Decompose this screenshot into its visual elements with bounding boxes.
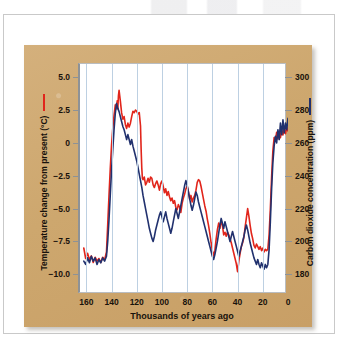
x-axis-tick-label: 0 xyxy=(286,297,291,307)
left-axis-tick-label: −2.5 xyxy=(53,171,70,181)
left-axis-title: Temperature change from present (°C) xyxy=(39,92,49,272)
left-axis-tick-label: 2.5 xyxy=(58,105,70,115)
x-axis-tick-label: 100 xyxy=(155,297,169,307)
x-axis-tick-label: 60 xyxy=(208,297,217,307)
x-axis-tick-label: 140 xyxy=(104,297,118,307)
x-axis-tick-label: 80 xyxy=(182,297,191,307)
left-axis-tick-label: −7.5 xyxy=(53,236,70,246)
right-axis-tick xyxy=(285,176,292,177)
x-axis-title: Thousands of years ago xyxy=(78,311,286,321)
right-axis-tick xyxy=(285,110,292,111)
x-axis-tick-label: 120 xyxy=(130,297,144,307)
left-axis-tick xyxy=(73,143,80,144)
left-axis-tick xyxy=(73,77,80,78)
right-axis-tick xyxy=(285,77,292,78)
page-card: 1601401201008060402005.02.50−2.5−5.0−7.5… xyxy=(3,14,335,334)
gridline xyxy=(86,64,87,292)
co2-legend-line xyxy=(309,98,311,115)
right-axis-tick xyxy=(285,274,292,275)
gridline xyxy=(263,64,264,292)
figure-panel: 1601401201008060402005.02.50−2.5−5.0−7.5… xyxy=(24,45,312,327)
gridline xyxy=(212,64,213,292)
x-axis-tick-label: 20 xyxy=(258,297,267,307)
gridline xyxy=(238,64,239,292)
left-axis-tick xyxy=(73,176,80,177)
left-axis-tick xyxy=(73,241,80,242)
left-axis-tick xyxy=(73,209,80,210)
right-axis-title: Carbon dioxide concentration (ppm) xyxy=(305,92,315,272)
left-axis-title-label: Temperature change from present (°C) xyxy=(39,116,49,271)
x-axis-tick-label: 40 xyxy=(233,297,242,307)
left-axis-tick-label: 5.0 xyxy=(58,72,70,82)
right-axis-title-label: Carbon dioxide concentration (ppm) xyxy=(305,120,315,266)
right-axis-tick xyxy=(285,143,292,144)
left-axis-tick xyxy=(73,110,80,111)
left-axis-tick-label: −10.0 xyxy=(48,269,70,279)
gridline xyxy=(162,64,163,292)
x-axis-tick-label: 160 xyxy=(79,297,93,307)
temperature-legend-line xyxy=(43,94,45,111)
gridline xyxy=(112,64,113,292)
plot-area: 1601401201008060402005.02.50−2.5−5.0−7.5… xyxy=(78,63,286,293)
gridline xyxy=(137,64,138,292)
right-axis-tick-label: 300 xyxy=(295,72,309,82)
left-axis-tick-label: −5.0 xyxy=(53,204,70,214)
left-axis-tick xyxy=(73,274,80,275)
gridline xyxy=(187,64,188,292)
figure-page: 1601401201008060402005.02.50−2.5−5.0−7.5… xyxy=(0,0,343,340)
right-axis-tick xyxy=(285,209,292,210)
left-axis-tick-label: 0 xyxy=(65,138,70,148)
right-axis-tick xyxy=(285,241,292,242)
